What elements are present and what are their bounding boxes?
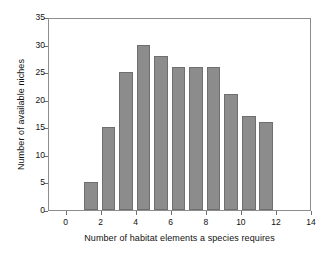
y-tick-label: 20 [36,95,45,106]
y-tick-label: 15 [36,122,45,133]
x-tick-mark [311,211,312,215]
bar [84,182,98,210]
x-tick-mark [136,211,137,215]
x-tick-label: 8 [203,217,208,228]
bar [242,116,256,210]
x-tick-mark [171,211,172,215]
x-tick-mark [66,211,67,215]
y-tick-label: 30 [36,40,45,51]
bar [119,72,133,210]
x-tick-label: 2 [98,217,103,228]
x-tick-label: 0 [63,217,68,228]
bar [259,122,273,210]
x-tick-label: 10 [236,217,245,228]
x-tick-label: 6 [168,217,173,228]
bar [207,67,221,210]
bar [154,56,168,210]
y-tick-label: 35 [36,12,45,23]
x-tick-label: 4 [133,217,138,228]
y-tick-label: 5 [40,177,45,188]
bar [224,94,238,210]
bar [102,127,116,210]
bar-series [49,19,310,210]
bar [137,45,151,210]
x-tick-label: 14 [306,217,315,228]
bar [172,67,186,210]
x-tick-mark [241,211,242,215]
y-tick-label: 0 [40,205,45,216]
x-tick-mark [206,211,207,215]
x-tick-label: 12 [271,217,280,228]
y-tick-label: 25 [36,67,45,78]
x-tick-mark [101,211,102,215]
bar [189,67,203,210]
x-tick-mark [276,211,277,215]
x-axis-label: Number of habitat elements a species req… [48,233,311,243]
bar-chart-figure: Number of available niches 0510152025303… [0,0,335,255]
y-axis-label: Number of available niches [14,18,28,211]
y-tick-label: 10 [36,150,45,161]
plot-area [48,18,311,211]
